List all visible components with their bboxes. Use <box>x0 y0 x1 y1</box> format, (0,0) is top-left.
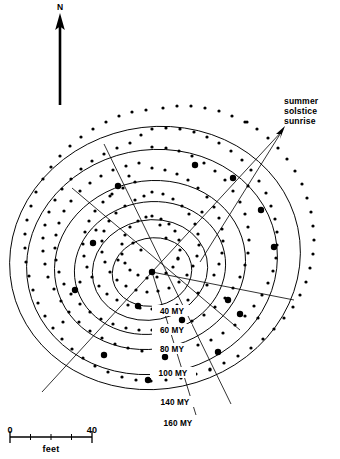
stone-marker-small <box>145 276 148 279</box>
stone-marker-small <box>271 269 274 272</box>
alignment-summer-solstice-sunrise <box>152 130 283 272</box>
stone-marker-small <box>121 186 124 189</box>
annotation-line-1: summer <box>284 96 319 106</box>
stone-marker-small <box>134 378 137 381</box>
stone-marker-small <box>131 241 134 244</box>
stone-marker-small <box>220 251 223 254</box>
stone-marker-small <box>282 316 285 319</box>
stone-marker-small <box>130 110 133 113</box>
stone-marker-small <box>150 166 153 169</box>
stone-marker-small <box>163 168 166 171</box>
stone-marker-small <box>264 191 267 194</box>
ring-label-100my: 100 MY <box>159 369 188 378</box>
stone-marker-small <box>78 280 81 283</box>
stone-marker-small <box>298 293 301 296</box>
stone-marker-small <box>137 161 140 164</box>
stone-marker-small <box>133 198 136 201</box>
stone-marker-large <box>271 244 277 250</box>
stone-marker-small <box>128 141 131 144</box>
stone-marker-small <box>221 239 224 242</box>
stone-marker-small <box>139 133 142 136</box>
stone-marker-small <box>126 303 129 306</box>
stone-marker-small <box>47 210 50 213</box>
stone-marker-large <box>101 352 107 358</box>
stone-marker-large <box>225 297 231 303</box>
stone-marker-small <box>178 248 181 251</box>
stone-marker-small <box>142 194 145 197</box>
stone-marker-small <box>52 287 55 290</box>
stone-marker-small <box>136 219 139 222</box>
stone-marker-small <box>164 146 167 149</box>
stone-marker-small <box>123 233 126 236</box>
stone-marker-small <box>217 262 220 265</box>
stone-marker-small <box>202 161 205 164</box>
stone-marker-small <box>164 378 167 381</box>
stone-marker-small <box>309 210 312 213</box>
stone-marker-small <box>120 375 123 378</box>
stone-marker-small <box>243 263 246 266</box>
stone-marker-small <box>308 266 311 269</box>
stone-marker-small <box>221 331 224 334</box>
stone-marker-small <box>249 168 252 171</box>
stone-marker-small <box>101 200 104 203</box>
stone-marker-small <box>82 254 85 257</box>
stone-marker-small <box>144 215 147 218</box>
stone-marker-small <box>213 305 216 308</box>
stone-marker-small <box>103 260 106 263</box>
annotation-leader-line <box>200 131 282 262</box>
stone-marker-small <box>59 299 62 302</box>
stone-marker-small <box>27 274 30 277</box>
stone-marker-small <box>150 127 153 130</box>
stone-marker-small <box>158 223 161 226</box>
stone-marker-small <box>177 280 180 283</box>
stone-marker-small <box>43 223 46 226</box>
stone-marker-large <box>149 269 155 275</box>
stone-marker-small <box>186 178 189 181</box>
stone-marker-large <box>179 317 185 323</box>
stone-marker-large <box>162 354 168 360</box>
stone-marker-small <box>195 254 198 257</box>
stone-marker-small <box>275 230 278 233</box>
stone-marker-small <box>113 342 116 345</box>
stone-marker-small <box>311 224 314 227</box>
stone-marker-small <box>117 114 120 117</box>
stone-marker-small <box>223 178 226 181</box>
stone-marker-small <box>217 216 220 219</box>
stone-marker-small <box>53 198 56 201</box>
stone-marker-small <box>205 283 208 286</box>
stone-marker-small <box>93 209 96 212</box>
stone-marker-small <box>120 252 123 255</box>
stone-marker-small <box>189 104 192 107</box>
stone-marker-small <box>256 316 259 319</box>
stone-marker-small <box>164 271 167 274</box>
ring-100my <box>39 163 262 367</box>
stone-marker-small <box>123 204 126 207</box>
stone-marker-small <box>203 106 206 109</box>
stone-marker-small <box>105 292 108 295</box>
stone-marker-small <box>79 135 82 138</box>
stone-marker-small <box>177 238 180 241</box>
stone-marker-small <box>41 236 44 239</box>
stone-marker-small <box>186 298 189 301</box>
stone-marker-small <box>134 288 137 291</box>
stone-marker-small <box>246 251 249 254</box>
stone-marker-small <box>111 322 114 325</box>
stone-marker-large <box>115 183 121 189</box>
stone-marker-small <box>36 301 39 304</box>
stone-marker-small <box>205 195 208 198</box>
stone-marker-small <box>81 242 84 245</box>
stone-marker-small <box>173 229 176 232</box>
stone-marker-small <box>100 336 103 339</box>
stone-marker-small <box>53 246 56 249</box>
stone-marker-small <box>115 146 118 149</box>
stone-marker-small <box>23 246 26 249</box>
stone-marker-small <box>208 368 211 371</box>
stone-marker-small <box>41 249 44 252</box>
arrow-pointer-icon <box>276 126 285 139</box>
stone-marker-small <box>68 144 71 147</box>
stone-marker-small <box>127 174 130 177</box>
stone-marker-small <box>161 192 164 195</box>
stone-marker-small <box>78 189 81 192</box>
stone-marker-small <box>293 169 296 172</box>
stone-marker-small <box>31 288 34 291</box>
